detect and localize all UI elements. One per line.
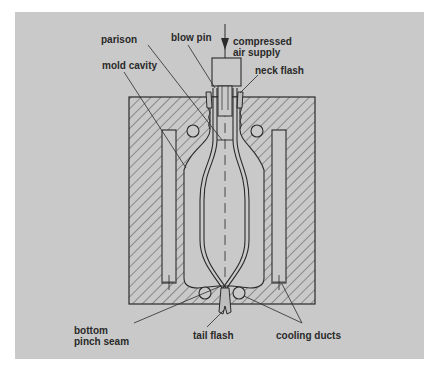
label-neck-flash: neck flash: [255, 65, 304, 76]
blow-molding-diagram: [0, 0, 439, 372]
label-compressed-air-line2: air supply: [233, 47, 280, 58]
label-mold-cavity: mold cavity: [102, 60, 157, 71]
label-bottom-pinch-seam-line2: pinch seam: [74, 336, 129, 347]
label-tail-flash: tail flash: [193, 330, 234, 341]
label-blow-pin: blow pin: [171, 32, 212, 43]
tail-flash: [219, 288, 231, 314]
label-cooling-ducts: cooling ducts: [276, 330, 341, 341]
label-compressed-air-line1: compressed: [233, 36, 292, 47]
cooling-duct-right: [272, 130, 286, 283]
label-bottom-pinch-seam-line1: bottom: [74, 325, 108, 336]
label-parison: parison: [101, 34, 137, 45]
cooling-duct-left: [162, 130, 176, 283]
compressed-air-arrow: [221, 24, 229, 58]
